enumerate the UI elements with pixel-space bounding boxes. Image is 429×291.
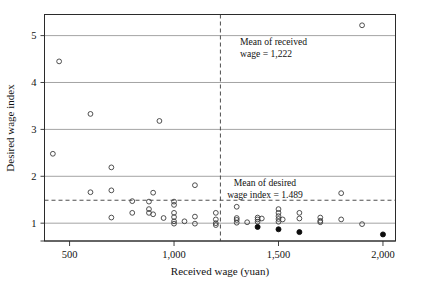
y-tick-label-5: 5: [31, 30, 36, 41]
y-tick-label-4: 4: [31, 77, 37, 88]
y-tick-label-2: 2: [31, 171, 36, 182]
mean-desired-label-line1: Mean of desired: [234, 177, 297, 188]
mean-desired-label-line2: wage index = 1.489: [227, 189, 303, 200]
data-point-filled: [255, 224, 260, 229]
y-axis-title: Desired wage index: [4, 84, 16, 172]
data-point-filled: [297, 230, 302, 235]
scatter-plot-figure: 12345 5001,0001,5002,000 Mean of receive…: [0, 0, 429, 291]
data-point-filled: [276, 227, 281, 232]
mean-received-label-line2: wage = 1,222: [240, 48, 292, 59]
x-tick-label-1000: 1,000: [162, 249, 186, 260]
data-point-filled: [380, 232, 385, 237]
x-axis-title: Received wage (yuan): [171, 265, 270, 278]
plot-background: [0, 0, 429, 291]
y-tick-label-1: 1: [31, 218, 36, 229]
plot-svg: 12345 5001,0001,5002,000 Mean of receive…: [0, 0, 429, 291]
y-tick-label-3: 3: [31, 124, 36, 135]
x-tick-label-500: 500: [62, 249, 78, 260]
x-tick-label-2000: 2,000: [371, 249, 395, 260]
mean-received-label-line1: Mean of received: [240, 36, 307, 47]
x-tick-label-1500: 1,500: [267, 249, 291, 260]
